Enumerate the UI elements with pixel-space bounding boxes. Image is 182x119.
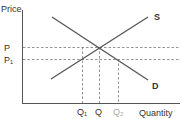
supply-label: S xyxy=(154,12,160,22)
quantity-q2-label: Q₂ xyxy=(113,107,124,117)
quantity-q-label: Q xyxy=(95,107,102,117)
demand-label: D xyxy=(152,81,159,91)
price-p1-label: P₁ xyxy=(4,55,13,65)
quantity-q1-label: Q₁ xyxy=(77,107,87,117)
supply-demand-diagram: Price Quantity S D P P₁ Q₁ Q Q₂ xyxy=(0,0,182,119)
x-axis-label: Quantity xyxy=(139,108,173,118)
price-p-label: P xyxy=(4,43,10,53)
y-axis-label: Price xyxy=(1,4,22,14)
